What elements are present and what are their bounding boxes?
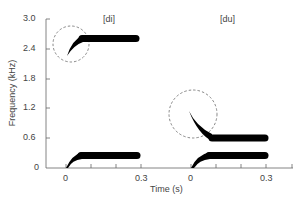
y-tick-label: 1.8 xyxy=(23,73,36,83)
x-tick-label: 0.3 xyxy=(260,173,273,183)
x-ticks xyxy=(66,164,292,168)
y-axis-title: Frequency (kHz) xyxy=(7,53,17,133)
x-axis-title: Time (s) xyxy=(150,184,183,194)
x-tick-label: 0 xyxy=(63,173,68,183)
y-tick-label: 0.6 xyxy=(23,132,36,142)
panel-label-du: [du] xyxy=(220,14,235,24)
dashed-circle-di xyxy=(53,26,89,62)
f2-transition-du xyxy=(189,111,212,141)
y-ticks xyxy=(46,19,50,138)
y-tick-label: 1.2 xyxy=(23,102,36,112)
y-tick-label: 3.0 xyxy=(23,13,36,23)
y-tick-label: 0 xyxy=(34,162,39,172)
dashed-circle-du xyxy=(169,90,217,138)
x-tick-label: 0 xyxy=(188,173,193,183)
x-tick-label: 0.3 xyxy=(135,173,148,183)
panel-label-di: [di] xyxy=(103,14,115,24)
y-tick-label: 2.4 xyxy=(23,43,36,53)
